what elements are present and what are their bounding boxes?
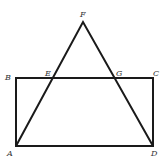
rectangle-abcd (16, 78, 153, 146)
label-a: A (6, 149, 13, 158)
label-e: E (44, 69, 51, 78)
label-b: B (4, 73, 11, 82)
label-c: C (153, 69, 159, 78)
label-d: D (150, 149, 158, 158)
triangle-afd-sides (16, 22, 153, 146)
label-f: F (79, 10, 86, 19)
geometry-diagram: F B E G C A D (0, 0, 164, 164)
label-g: G (116, 69, 123, 78)
